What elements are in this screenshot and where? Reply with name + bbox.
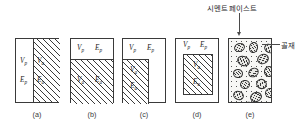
aggregate-particle: [233, 42, 246, 54]
aggregate-particle: [263, 65, 272, 78]
cement-paste-leader-line: [239, 13, 240, 33]
panel-d-aggregate-volume-label: Va: [193, 62, 200, 69]
panel-c-aggregate-volume-label: Va: [130, 67, 137, 74]
panel-c-aggregate-modulus-label: Ea: [130, 83, 137, 90]
aggregate-particle: [255, 52, 270, 66]
panel-e-box: [228, 38, 272, 103]
panel-b-aggregate-modulus-label: Ea: [95, 77, 102, 84]
aggregate-callout-label: 골재: [281, 39, 295, 50]
panel-a-paste-region: [16, 39, 33, 102]
panel-e: [228, 38, 272, 103]
panel-d-caption: (d): [177, 110, 217, 119]
aggregate-particle: [239, 79, 251, 90]
panel-d-aggregate-modulus-label: Ea: [193, 79, 200, 86]
aggregate-particle: [236, 54, 252, 68]
panel-d-paste-modulus-label: Ep: [200, 42, 207, 49]
panel-a-box: [15, 38, 59, 103]
panel-a-aggregate-region: [33, 39, 60, 102]
panel-d-paste-volume-label: Vp: [183, 42, 190, 49]
aggregate-particle: [264, 87, 272, 99]
panel-b-aggregate-volume-label: Va: [77, 77, 84, 84]
composite-model-figure: Vp Ep Va Ea (a) Vp Ep Va Ea: [0, 0, 305, 128]
cement-paste-arrowhead-icon: [237, 32, 241, 36]
panel-c-paste-volume-label: Vp: [129, 45, 136, 52]
aggregate-leader-line: [262, 44, 280, 45]
panel-b-paste-volume-label: Vp: [77, 45, 84, 52]
panel-c-paste-modulus-label: Ep: [147, 45, 154, 52]
panel-b-paste-modulus-label: Ep: [95, 45, 102, 52]
panel-c-aggregate-region: [123, 59, 149, 104]
panel-a-paste-volume-label: Vp: [20, 58, 27, 65]
panel-a-paste-modulus-label: Ep: [20, 77, 27, 84]
aggregate-particle: [248, 41, 259, 54]
panel-d-box: [175, 38, 219, 103]
panel-a-aggregate-volume-label: Va: [37, 58, 44, 65]
aggregate-particle: [246, 66, 260, 80]
panel-d: Vp Ep Va Ea: [175, 38, 219, 103]
panel-b-caption: (b): [72, 110, 112, 119]
aggregate-particle: [232, 89, 246, 101]
panel-c: Vp Ep Va Ea: [122, 38, 166, 103]
aggregate-particle: [249, 90, 264, 103]
panel-e-aggregate-particles: [229, 39, 271, 102]
panel-c-caption: (c): [124, 110, 164, 119]
aggregate-particle: [232, 68, 243, 78]
cement-paste-callout-label: 시멘트 페이스트: [207, 2, 256, 13]
panel-a-caption: (a): [17, 110, 57, 119]
panel-b: Vp Ep Va Ea: [70, 38, 114, 103]
panel-e-caption: (e): [230, 110, 270, 119]
panel-d-aggregate-core: [183, 54, 213, 95]
panel-a-aggregate-modulus-label: Ea: [37, 77, 44, 84]
panel-a: Vp Ep Va Ea: [15, 38, 59, 103]
